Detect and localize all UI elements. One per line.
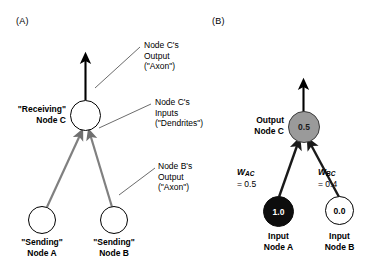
panel-b-weight-bc-value: = 0.4 [318,179,337,189]
panel-a-label: (A) [16,16,29,26]
panel-b-node-a: 1.0 [263,196,294,227]
panel-b-weight-ac-value: = 0.5 [237,179,256,189]
panel-a-node-a-label: "Sending" Node A [4,237,80,258]
panel-a-edge-b-to-c [90,134,112,207]
panel-a-node-b [100,206,128,234]
panel-a-edge-a-to-c [47,134,81,207]
neural-node-figure: (A) "Receiving" Node C "Sending" Node A … [0,0,389,272]
panel-b-weight-bc-subscript: BC [326,170,335,177]
panel-a-node-c [70,100,101,131]
panel-b-weight-ac-subscript: AC [245,170,254,177]
panel-a-callout-output: Node C's Output ("Axon") [144,40,206,72]
panel-b-weight-ac-symbol: W [237,167,245,177]
panel-a-node-c-label: "Receiving" Node C [0,104,66,125]
panel-b-node-a-value: 1.0 [273,207,285,217]
panel-a-leader-output [95,47,140,88]
panel-b-node-c-value: 0.5 [298,122,310,132]
panel-a-leader-inputs [99,104,151,128]
panel-b-node-b-label: Input Node B [301,231,378,252]
panel-a-callout-node-b-output: Node B's Output ("Axon") [158,161,214,193]
panel-b-node-b: 0.0 [325,196,354,225]
panel-a-leader-node-b-output [119,168,155,195]
panel-b-weight-bc-symbol: W [318,167,326,177]
panel-b-node-c: 0.5 [288,111,320,143]
panel-b-weight-ac: WAC = 0.5 [237,156,299,190]
panel-a-callout-inputs: Node C's Inputs ("Dendrites") [155,97,215,129]
panel-a-node-a [28,206,56,234]
panel-a-node-b-label: "Sending" Node B [76,237,152,258]
panel-b-node-c-label: Output Node C [218,115,284,136]
panel-b-label: (B) [212,16,225,26]
panel-b-weight-bc: WBC = 0.4 [318,156,386,190]
panel-b-node-b-value: 0.0 [334,206,346,216]
